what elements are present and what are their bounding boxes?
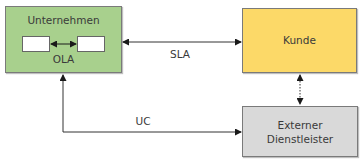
dienstleister-label-line1: Externer (242, 119, 358, 131)
ola-label: OLA (5, 53, 122, 65)
uc-label: UC (128, 115, 158, 127)
dienstleister-label-line2: Dienstleister (242, 133, 358, 145)
sla-label: SLA (160, 48, 200, 60)
kunde-label: Kunde (242, 34, 357, 46)
dienstleister-box (242, 106, 358, 157)
